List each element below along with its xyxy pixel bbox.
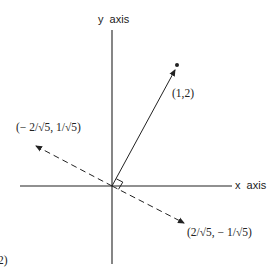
cut-off-label: 2) xyxy=(0,254,8,266)
vector-1-2-label: (1,2) xyxy=(172,87,194,99)
y-axis-label: y axis xyxy=(98,13,129,25)
dashed-vector-pos-line xyxy=(112,186,184,223)
x-axis-label: x axis xyxy=(235,179,266,191)
right-angle-marker xyxy=(116,179,123,190)
vector-1-2-endpoint-dot xyxy=(175,63,179,67)
vector-pos-label: (2/√5, − 1/√5) xyxy=(187,226,252,238)
vector-neg-label: (− 2/√5, 1/√5) xyxy=(16,121,81,133)
vector-1-2-line xyxy=(112,70,175,186)
dashed-vector-neg-line xyxy=(36,146,112,186)
